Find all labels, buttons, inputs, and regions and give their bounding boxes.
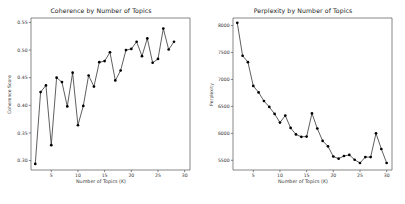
coherence-data-point <box>141 55 144 58</box>
coherence-x-tick-label: 5 <box>50 173 53 178</box>
perplexity-x-tick-label: 5 <box>252 173 255 178</box>
coherence-data-point <box>55 76 58 79</box>
coherence-data-point <box>173 40 176 43</box>
perplexity-data-point <box>263 100 266 103</box>
perplexity-data-point <box>385 162 388 165</box>
coherence-data-point <box>61 81 64 84</box>
perplexity-y-tick-label: 8000 <box>218 23 230 28</box>
perplexity-x-tick-label: 30 <box>384 173 390 178</box>
coherence-data-point <box>82 105 85 108</box>
perplexity-data-point <box>364 156 367 159</box>
plot-area-perplexity: 55006000650070007500800051015202530 <box>202 0 404 204</box>
coherence-data-point <box>146 37 149 40</box>
coherence-data-point <box>151 61 154 64</box>
perplexity-data-point <box>348 154 351 157</box>
coherence-x-tick-label: 30 <box>182 173 188 178</box>
coherence-data-point <box>39 91 42 94</box>
coherence-data-point <box>93 85 96 88</box>
coherence-data-point <box>114 79 117 82</box>
perplexity-data-point <box>268 106 271 109</box>
perplexity-data-point <box>284 114 287 117</box>
perplexity-data-point <box>295 133 298 136</box>
coherence-data-point <box>135 40 138 43</box>
perplexity-data-point <box>311 112 314 115</box>
coherence-x-tick-label: 15 <box>102 173 108 178</box>
perplexity-data-point <box>332 155 335 158</box>
coherence-data-point <box>167 48 170 51</box>
figure-container: Coherence by Number of Topics Coherence … <box>0 0 405 204</box>
perplexity-y-tick-label: 7000 <box>218 77 230 82</box>
coherence-y-tick-label: 0.45 <box>17 75 27 80</box>
coherence-data-point <box>125 49 128 52</box>
coherence-data-point <box>130 48 133 51</box>
perplexity-x-tick-label: 15 <box>304 173 310 178</box>
coherence-data-point <box>98 61 101 64</box>
perplexity-x-tick-label: 10 <box>277 173 283 178</box>
coherence-data-point <box>71 71 74 74</box>
panel-perplexity: Perplexity by Number of Topics Perplexit… <box>202 0 404 204</box>
coherence-data-point <box>45 84 48 87</box>
coherence-series-line <box>35 29 174 164</box>
coherence-y-tick-label: 0.50 <box>17 48 27 53</box>
perplexity-axis-frame <box>233 18 392 170</box>
coherence-data-point <box>157 58 160 61</box>
perplexity-data-point <box>273 113 276 116</box>
perplexity-data-point <box>252 85 255 88</box>
perplexity-data-point <box>247 61 250 64</box>
perplexity-data-point <box>343 155 346 158</box>
perplexity-data-point <box>321 140 324 143</box>
perplexity-data-point <box>289 127 292 130</box>
coherence-y-tick-label: 0.35 <box>17 131 27 136</box>
perplexity-data-point <box>305 135 308 138</box>
perplexity-y-tick-label: 7500 <box>218 50 230 55</box>
coherence-data-point <box>34 163 37 166</box>
perplexity-data-point <box>300 136 303 139</box>
perplexity-y-tick-label: 6000 <box>218 131 230 136</box>
perplexity-data-point <box>353 158 356 161</box>
perplexity-data-point <box>359 162 362 165</box>
perplexity-y-tick-label: 6500 <box>218 104 230 109</box>
perplexity-data-point <box>327 145 330 148</box>
panel-coherence: Coherence by Number of Topics Coherence … <box>0 0 202 204</box>
coherence-y-tick-label: 0.55 <box>17 20 27 25</box>
coherence-x-tick-label: 25 <box>155 173 161 178</box>
perplexity-x-tick-label: 25 <box>357 173 363 178</box>
plot-area-coherence: 0.300.350.400.450.500.5551015202530 <box>0 0 202 204</box>
perplexity-data-point <box>241 54 244 57</box>
coherence-x-tick-label: 20 <box>128 173 134 178</box>
coherence-data-point <box>66 105 69 108</box>
coherence-data-point <box>87 74 90 77</box>
perplexity-data-point <box>369 156 372 159</box>
perplexity-data-point <box>337 157 340 160</box>
perplexity-y-tick-label: 5500 <box>218 158 230 163</box>
perplexity-data-point <box>316 127 319 130</box>
perplexity-data-point <box>380 148 383 151</box>
coherence-data-point <box>50 144 53 147</box>
coherence-data-point <box>162 27 165 30</box>
coherence-data-point <box>119 69 122 72</box>
coherence-data-point <box>77 124 80 127</box>
perplexity-data-point <box>375 132 378 135</box>
coherence-y-tick-label: 0.30 <box>17 158 27 163</box>
perplexity-x-tick-label: 20 <box>330 173 336 178</box>
coherence-x-tick-label: 10 <box>75 173 81 178</box>
coherence-data-point <box>103 60 106 63</box>
perplexity-data-point <box>279 121 282 124</box>
perplexity-data-point <box>236 22 239 25</box>
coherence-y-tick-label: 0.40 <box>17 103 27 108</box>
coherence-data-point <box>109 51 112 54</box>
perplexity-data-point <box>257 91 260 94</box>
